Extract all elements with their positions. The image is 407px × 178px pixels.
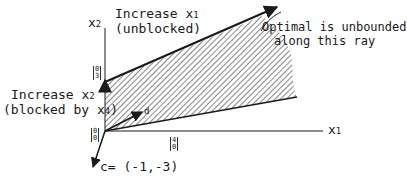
x1-axis-letter: x [328,122,336,137]
increase-x1-subscript: 1 [193,10,198,20]
point-4-0-vector: 4 0 [170,137,178,151]
increase-x2-text: Increase x [11,87,89,102]
origin-vector: 0 0 [91,128,99,142]
blocked-by-text: (blocked by x [3,102,105,117]
x2-axis-label: x2 [88,16,101,31]
x2-axis-subscript: 2 [96,19,101,29]
increase-x1-label: Increase x1 [115,7,199,22]
direction-d-label: d [144,104,149,118]
unblocked-label: (unblocked) [115,22,201,36]
point-4-0-y: 0 [172,144,176,151]
origin-y: 0 [93,135,97,142]
x1-axis-label: x1 [328,123,341,138]
x2-axis-letter: x [88,15,96,30]
x1-axis-subscript: 1 [336,126,341,136]
increase-x1-text: Increase x [115,6,193,21]
blocked-by-x4-label: (blocked by x4) [3,103,118,118]
along-ray-label: along this ray [274,34,375,48]
point-0-3-y: 3 [95,73,99,80]
blocked-by-close-paren: ) [110,102,118,117]
point-0-3-vector: 0 3 [93,66,101,80]
optimal-unbounded-label: Optimal is unbounded [262,20,407,34]
increase-x2-subscript: 2 [89,91,94,101]
cost-vector-label: c= (-1,-3) [100,160,178,174]
increase-x2-label: Increase x2 [11,88,95,103]
